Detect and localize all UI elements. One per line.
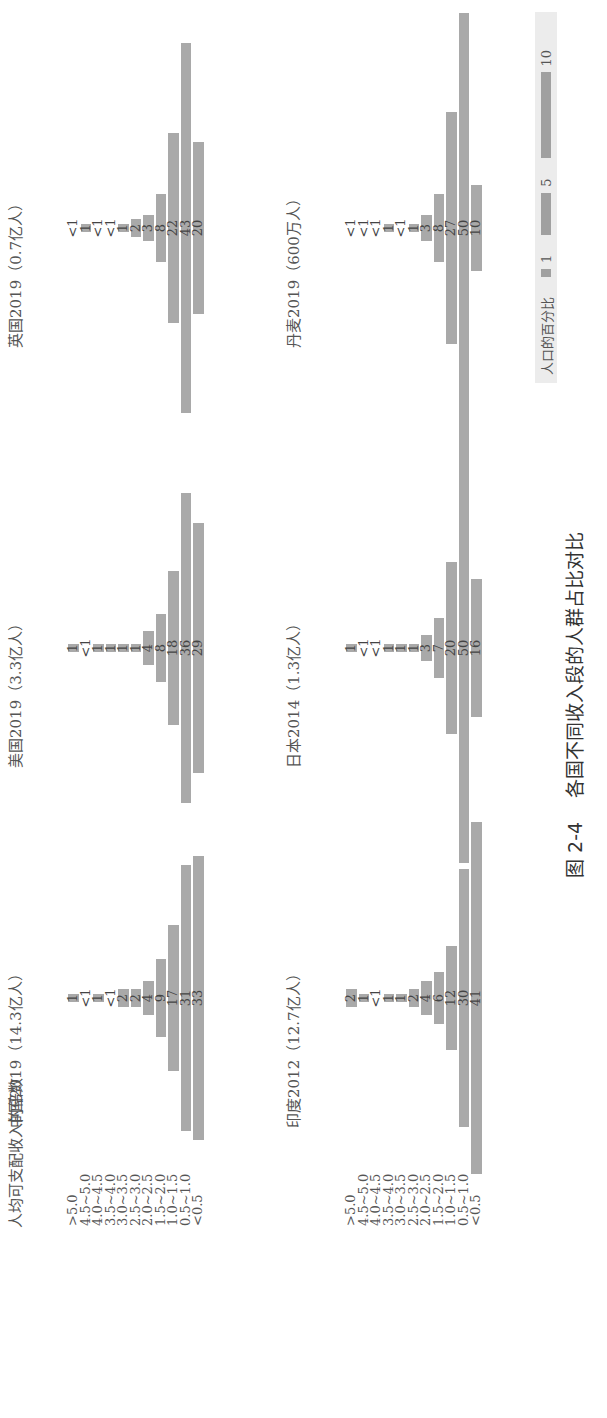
panel-title: 印度2012（12.7亿人）: [282, 966, 303, 1128]
bar-row: 1: [395, 478, 408, 778]
bar-row: 31: [180, 828, 193, 1128]
bar-row: 1: [117, 478, 130, 778]
y-tick-label: <0.5: [470, 1174, 483, 1226]
bar-group: 1<1<111137205016: [345, 478, 483, 778]
bar-row: <1: [345, 58, 358, 358]
y-axis-labels-row2: >5.04.5~5.04.0~4.53.5~4.03.0~3.52.5~3.02…: [345, 1174, 483, 1226]
bar-row: 2: [345, 828, 358, 1128]
bar-row: 8: [433, 58, 446, 358]
bar-row: 50: [458, 58, 471, 358]
bar-row: 30: [458, 828, 471, 1128]
bar-row: 1: [67, 478, 80, 778]
bar-row: 3: [142, 58, 155, 358]
bar-row: 1: [80, 58, 93, 358]
y-axis-labels-row1: >5.04.5~5.04.0~4.53.5~4.03.0~3.52.5~3.02…: [67, 1174, 205, 1226]
bar-row: 12: [445, 828, 458, 1128]
rotated-figure: 人均可支配收入的倍数 >5.04.5~5.04.0~4.53.5~4.03.0~…: [0, 0, 607, 1418]
bar-group: <11<1<11238224320: [67, 58, 205, 358]
bar-row: <1: [105, 828, 118, 1128]
bar-value-label: 16: [470, 628, 483, 668]
bar-value-label: 41: [470, 978, 483, 1018]
bar-group: <1<1<11<1138275010: [345, 58, 483, 358]
panel-title: 英国2019（0.7亿人）: [4, 196, 25, 348]
bar-row: 1: [130, 478, 143, 778]
bar-row: 3: [420, 58, 433, 358]
bar-row: <1: [105, 58, 118, 358]
bar-row: 1: [358, 828, 371, 1128]
panel-title: 日本2014（1.3亿人）: [282, 616, 303, 768]
bar-row: 36: [180, 478, 193, 778]
bar-row: 41: [470, 828, 483, 1128]
bar-row: 1: [92, 828, 105, 1128]
legend-label-1: 1: [539, 255, 554, 263]
bar-row: 20: [192, 58, 205, 358]
bar-row: 1: [345, 478, 358, 778]
panel-title: 中国2019（14.3亿人）: [4, 966, 25, 1128]
figure-caption: 图 2-4 各国不同收入段的人群占比对比: [560, 532, 587, 878]
bar-group: 1<11<12249173133: [67, 828, 205, 1128]
legend-label-5: 5: [539, 178, 554, 186]
bar-group: 1<1111148183629: [67, 478, 205, 778]
bar-row: 1: [383, 828, 396, 1128]
bar-row: 4: [420, 828, 433, 1128]
bar-row: 1: [67, 828, 80, 1128]
bar-value-label: 20: [192, 208, 205, 248]
bar-value-label: 10: [470, 208, 483, 248]
bar-row: 8: [155, 478, 168, 778]
bar-value-label: 33: [192, 978, 205, 1018]
legend: 人口的百分比 1 5 10: [535, 12, 557, 383]
bar-row: 2: [117, 828, 130, 1128]
bar-row: <1: [358, 58, 371, 358]
bar-row: <1: [67, 58, 80, 358]
bar-row: 2: [130, 58, 143, 358]
bar-row: 9: [155, 828, 168, 1128]
bar-row: 17: [167, 828, 180, 1128]
bar-row: 20: [445, 478, 458, 778]
bar-row: 1: [92, 478, 105, 778]
bar-row: 7: [433, 478, 446, 778]
bar-row: 4: [142, 828, 155, 1128]
y-tick-label: <0.5: [192, 1174, 205, 1226]
bar-row: 43: [180, 58, 193, 358]
bar-row: 18: [167, 478, 180, 778]
bar-row: 3: [420, 478, 433, 778]
bar-row: 1: [383, 478, 396, 778]
bar-row: 16: [470, 478, 483, 778]
bar-row: <1: [80, 828, 93, 1128]
panel-title: 丹麦2019（600万人）: [282, 191, 303, 348]
legend-title: 人口的百分比: [537, 297, 556, 375]
bar-row: <1: [80, 478, 93, 778]
legend-swatch-5: [541, 193, 551, 235]
bar-row: <1: [370, 478, 383, 778]
bar-row: 1: [408, 478, 421, 778]
bar-row: <1: [92, 58, 105, 358]
panel-title: 美国2019（3.3亿人）: [4, 616, 25, 768]
bar-row: 1: [383, 58, 396, 358]
legend-swatch-1: [541, 269, 551, 277]
bar-row: 10: [470, 58, 483, 358]
bar-row: 1: [105, 478, 118, 778]
legend-label-10: 10: [539, 50, 554, 67]
bar-value-label: 29: [192, 628, 205, 668]
bar-group: 21<111246123041: [345, 828, 483, 1128]
bar-row: 1: [408, 58, 421, 358]
bar-row: 2: [408, 828, 421, 1128]
bar-row: <1: [370, 58, 383, 358]
bar-row: 27: [445, 58, 458, 358]
bar-row: 8: [155, 58, 168, 358]
bar-row: <1: [395, 58, 408, 358]
legend-swatch-10: [541, 72, 551, 158]
bar-row: 1: [395, 828, 408, 1128]
bar-row: 6: [433, 828, 446, 1128]
bar-row: 50: [458, 478, 471, 778]
bar-row: 1: [117, 58, 130, 358]
bar-row: 4: [142, 478, 155, 778]
bar-row: 33: [192, 828, 205, 1128]
bar-row: 29: [192, 478, 205, 778]
bar-row: <1: [358, 478, 371, 778]
bar-row: 22: [167, 58, 180, 358]
bar-row: 2: [130, 828, 143, 1128]
bar-row: <1: [370, 828, 383, 1128]
